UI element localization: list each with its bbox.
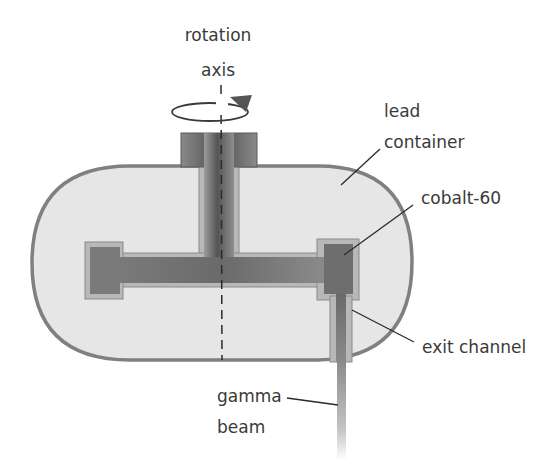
label-cobalt-60: cobalt-60 — [421, 188, 501, 208]
cobalt-unit-diagram: rotation axis lead container cobalt-60 e… — [0, 0, 554, 476]
label-axis: axis — [201, 60, 235, 80]
label-lead: lead — [384, 101, 420, 121]
rotation-axis-line — [221, 85, 222, 360]
gamma-beam — [337, 360, 346, 460]
leader-gamma-beam — [287, 398, 338, 405]
label-gamma: gamma — [217, 386, 282, 406]
label-exit-channel: exit channel — [422, 337, 526, 357]
rotation-arrow-icon — [172, 95, 252, 121]
label-beam: beam — [217, 417, 265, 437]
exit-channel — [336, 294, 346, 362]
label-rotation: rotation — [185, 25, 252, 45]
label-container: container — [384, 132, 465, 152]
